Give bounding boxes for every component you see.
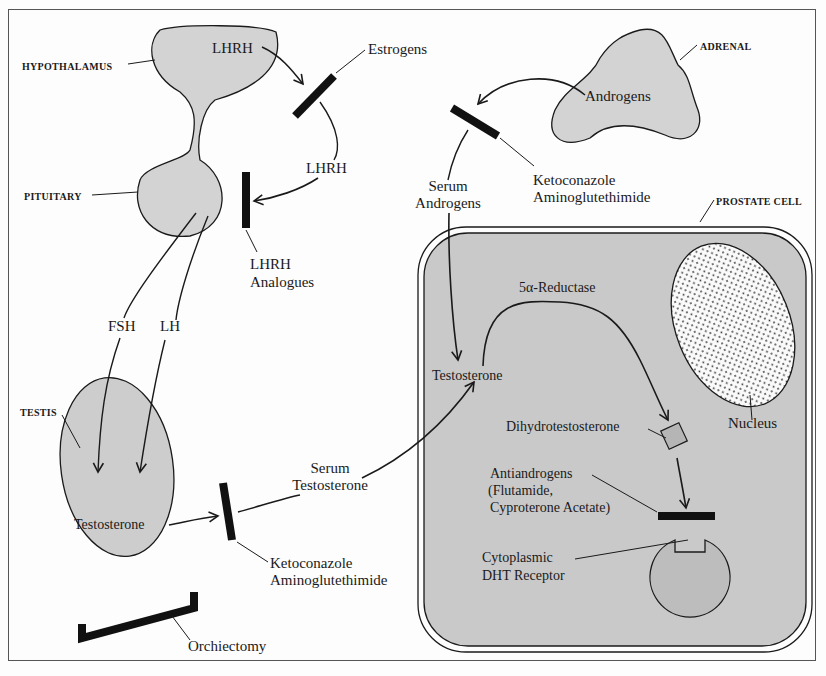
- label-adrenal-block-1: Ketoconazole: [533, 172, 615, 189]
- label-lh: LH: [160, 318, 180, 335]
- label-receptor-2: DHT Receptor: [482, 567, 565, 584]
- label-hypothalamus: HYPOTHALAMUS: [22, 58, 112, 75]
- dht-receptor-shape: [650, 540, 730, 617]
- adrenal-shape: [552, 29, 700, 142]
- label-adrenal-androgens: Androgens: [585, 88, 651, 105]
- orchiectomy-bracket: [82, 592, 194, 638]
- label-lhrh-top: LHRH: [212, 40, 253, 57]
- label-fsh: FSH: [108, 318, 136, 335]
- label-serum-testosterone-1: Serum: [280, 460, 380, 477]
- testis-shape: [49, 370, 185, 564]
- label-nucleus: Nucleus: [728, 415, 777, 432]
- label-testis-testosterone: Testosterone: [74, 516, 145, 533]
- adrenal-blocker-bar: [452, 108, 498, 136]
- label-adrenal: ADRENAL: [700, 38, 752, 55]
- label-testis: TESTIS: [20, 404, 57, 421]
- label-lhrh-analogues-2: Analogues: [250, 274, 314, 291]
- label-lhrh-analogues-1: LHRH: [250, 256, 291, 273]
- label-serum-androgens-2: Androgens: [408, 195, 488, 212]
- hypothalamus-pituitary-shape: [137, 26, 277, 237]
- label-antiandrogens-3: Cyproterone Acetate): [490, 499, 610, 516]
- testis-blocker-bar: [223, 483, 232, 540]
- label-adrenal-block-2: Aminoglutethimide: [533, 189, 651, 206]
- label-5a-reductase: 5α-Reductase: [519, 279, 596, 296]
- label-orchiectomy: Orchiectomy: [188, 638, 266, 655]
- diagram-canvas: HYPOTHALAMUS PITUITARY TESTIS ADRENAL PR…: [0, 0, 826, 676]
- label-estrogens: Estrogens: [368, 41, 427, 58]
- label-testis-block-1: Ketoconazole: [270, 555, 352, 572]
- label-dht: Dihydrotestosterone: [506, 418, 620, 435]
- label-serum-androgens-1: Serum: [408, 178, 488, 195]
- label-antiandrogens-1: Antiandrogens: [490, 465, 572, 482]
- label-testis-block-2: Aminoglutethimide: [270, 572, 388, 589]
- label-prostate-cell: PROSTATE CELL: [716, 193, 802, 210]
- label-lhrh-mid: LHRH: [306, 160, 347, 177]
- label-receptor-1: Cytoplasmic: [482, 549, 553, 566]
- label-cell-testosterone: Testosterone: [432, 367, 503, 384]
- diagram-graphics: [0, 0, 826, 676]
- label-serum-testosterone-2: Testosterone: [280, 477, 380, 494]
- label-pituitary: PITUITARY: [24, 188, 82, 205]
- label-antiandrogens-2: (Flutamide,: [488, 482, 553, 499]
